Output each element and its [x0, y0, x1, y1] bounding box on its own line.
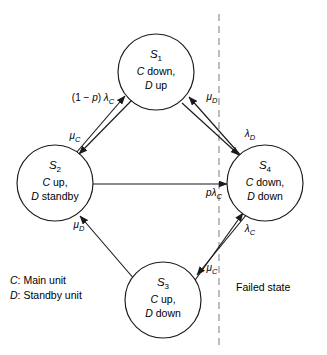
- edge-s4-to-s1: [189, 97, 243, 158]
- rate-label-s2-to-s4: pλC: [205, 187, 222, 201]
- state-desc-s4-line2: D down: [247, 190, 283, 202]
- state-node-s2[interactable]: S2 C up, D standby: [17, 145, 93, 221]
- state-desc-s1-line2: D up: [145, 79, 167, 91]
- edge-s2-to-s1: [70, 96, 125, 160]
- legend-item-main-unit: C: Main unit: [10, 274, 66, 286]
- state-desc-s2-line2: D standby: [31, 190, 79, 202]
- diagram-canvas: S1 C down, D up S2 C up, D standby S4 C …: [0, 0, 327, 355]
- edge-s1-to-s4: [182, 103, 239, 155]
- failed-state-label: Failed state: [236, 281, 290, 293]
- rate-label-s2-to-s1: (1 − p) λC: [72, 92, 115, 106]
- state-transition-diagram: S1 C down, D up S2 C up, D standby S4 C …: [0, 0, 327, 355]
- rate-label-s4-to-s1: μD: [206, 91, 218, 105]
- edge-s4-to-s3: [197, 214, 247, 275]
- state-node-s1[interactable]: S1 C down, D up: [118, 34, 194, 110]
- state-desc-s2-line1: C up,: [42, 176, 67, 188]
- state-desc-s3-line1: C up,: [150, 293, 175, 305]
- rate-label-s3-to-s4: λC: [244, 223, 256, 237]
- rate-label-s4-to-s3: μC: [206, 262, 218, 276]
- state-node-s3[interactable]: S3 C up, D down: [125, 262, 201, 338]
- state-node-s4[interactable]: S4 C down, D down: [227, 145, 303, 221]
- legend-item-standby-unit: D: Standby unit: [10, 289, 82, 301]
- state-desc-s4-line1: C down,: [246, 176, 285, 188]
- rate-label-s3-to-s2: μD: [73, 219, 85, 233]
- edge-s3-to-s2: [80, 216, 135, 280]
- edge-s3-to-s4: [193, 213, 243, 283]
- state-desc-s3-line2: D down: [145, 307, 181, 319]
- edge-s1-to-s2: [79, 99, 133, 154]
- rate-label-s1-to-s4: λD: [244, 128, 256, 142]
- rate-label-s1-to-s2: μC: [69, 130, 81, 144]
- state-desc-s1-line1: C down,: [137, 65, 176, 77]
